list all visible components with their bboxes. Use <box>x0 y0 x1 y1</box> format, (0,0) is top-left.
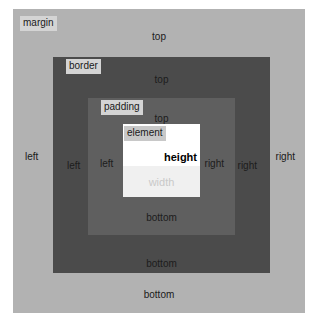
border-region: border top bottom left right padding top… <box>53 57 270 273</box>
padding-left-label: left <box>100 158 113 170</box>
border-left-label: left <box>67 160 80 172</box>
element-height-label: height <box>164 151 197 164</box>
border-label-chip: border <box>66 59 101 74</box>
padding-right-label: right <box>205 158 224 170</box>
border-right-label: right <box>238 160 257 172</box>
margin-bottom-label: bottom <box>13 289 305 301</box>
box-model-diagram: margin top bottom left right border top … <box>0 0 319 331</box>
element-content-box: element height width <box>123 124 200 197</box>
margin-left-label: left <box>25 151 38 163</box>
element-width-label: width <box>123 176 200 189</box>
margin-top-label: top <box>13 31 305 43</box>
margin-region: margin top bottom left right border top … <box>13 9 305 313</box>
border-top-label: top <box>53 74 270 86</box>
margin-right-label: right <box>276 151 295 163</box>
border-bottom-label: bottom <box>53 258 270 270</box>
element-label-chip: element <box>124 126 166 141</box>
padding-region: padding top bottom left right element he… <box>88 98 235 235</box>
padding-bottom-label: bottom <box>88 212 235 224</box>
margin-label-chip: margin <box>20 16 57 31</box>
